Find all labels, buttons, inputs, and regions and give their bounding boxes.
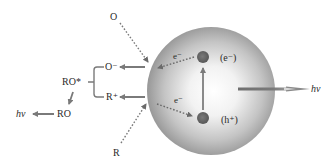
oxidant-label: O [110,12,117,22]
hole-state-label: (h⁺) [221,115,238,125]
electron-out-label: e⁻ [173,52,182,61]
reductant-radical-label: R⁺ [106,92,118,102]
mechanism-diagram: O O⁻ R⁺ R RO* RO hv hv e⁻ e⁻ (e⁻) (h⁺) [0,0,336,167]
emission-right-label: hv [311,84,320,94]
oxidant-radical-label: O⁻ [105,62,118,72]
nanoparticle-sphere [147,27,275,155]
electron-in-label: e⁻ [174,96,183,105]
relaxation-arrow [69,92,73,104]
excited-intermediate-label: RO* [62,77,81,87]
reductant-approach-arrow [121,104,146,143]
ground-product-label: RO [57,109,71,119]
electron-state-dot [197,51,209,63]
emission-left-label: hv [16,109,25,119]
electron-state-label: (e⁻) [220,53,236,63]
oxidant-approach-arrow [120,23,148,62]
reductant-label: R [113,148,120,158]
hole-state-dot [197,112,209,124]
annihilation-bracket [88,67,104,97]
diagram-canvas [0,0,336,167]
